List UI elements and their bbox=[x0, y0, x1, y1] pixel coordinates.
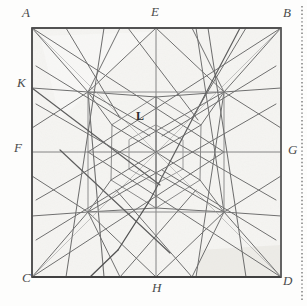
label-C: C bbox=[22, 271, 31, 284]
label-F: F bbox=[14, 141, 22, 154]
label-B: B bbox=[283, 6, 291, 19]
label-D: D bbox=[283, 274, 292, 287]
label-E: E bbox=[151, 5, 159, 18]
geometric-figure bbox=[0, 0, 307, 306]
label-H: H bbox=[152, 281, 161, 294]
manuscript-page: A B C D E F G H K L bbox=[0, 0, 307, 306]
label-L: L bbox=[136, 110, 144, 122]
label-K: K bbox=[17, 76, 26, 89]
label-A: A bbox=[22, 6, 30, 19]
label-G: G bbox=[288, 143, 297, 156]
figure-linework bbox=[32, 28, 281, 277]
